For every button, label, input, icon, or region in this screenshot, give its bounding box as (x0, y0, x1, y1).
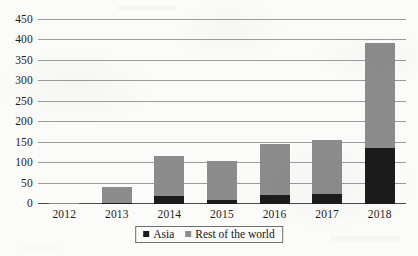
y-tick-label: 150 (15, 136, 33, 148)
bar-segment-asia[interactable] (365, 148, 395, 204)
bar-segment-asia[interactable] (260, 195, 290, 204)
x-tick-label: 2013 (94, 208, 140, 220)
x-tick-label: 2018 (357, 208, 403, 220)
bar-segment-rest-of-the-world[interactable] (365, 43, 395, 148)
y-tick-label: 50 (21, 177, 33, 189)
y-tick-label: 0 (27, 197, 33, 209)
chart-legend: AsiaRest of the world (135, 226, 283, 243)
chart-figure: 050100150200250300350400450 201220132014… (0, 0, 418, 256)
y-tick-label: 250 (15, 95, 33, 107)
legend-swatch-icon (185, 231, 191, 237)
bar-segment-asia[interactable] (207, 200, 237, 204)
legend-label: Rest of the world (195, 228, 275, 240)
legend-item[interactable]: Rest of the world (185, 228, 275, 240)
scan-artifact (330, 236, 400, 241)
bar-segment-rest-of-the-world[interactable] (312, 140, 342, 194)
y-tick-label: 450 (15, 13, 33, 25)
legend-item[interactable]: Asia (143, 228, 174, 240)
y-tick-label: 200 (15, 115, 33, 127)
x-tick-label: 2016 (252, 208, 298, 220)
bar-segment-asia[interactable] (154, 196, 184, 204)
legend-swatch-icon (143, 231, 149, 237)
plot-area: 050100150200250300350400450 201220132014… (38, 20, 406, 204)
bar-segment-asia[interactable] (102, 203, 132, 204)
bar-segment-rest-of-the-world[interactable] (49, 203, 79, 204)
x-tick-label: 2017 (304, 208, 350, 220)
bar-segment-asia[interactable] (312, 194, 342, 204)
bars-layer (38, 20, 406, 204)
y-tick-label: 400 (15, 33, 33, 45)
legend-label: Asia (153, 228, 174, 240)
bar-segment-rest-of-the-world[interactable] (102, 187, 132, 203)
y-tick-label: 300 (15, 74, 33, 86)
y-tick-label: 100 (15, 156, 33, 168)
y-tick-label: 350 (15, 54, 33, 66)
x-tick-label: 2014 (146, 208, 192, 220)
x-tick-label: 2015 (199, 208, 245, 220)
scan-artifact (20, 246, 60, 250)
scan-artifact (118, 6, 176, 10)
bar-segment-rest-of-the-world[interactable] (207, 161, 237, 200)
bar-segment-rest-of-the-world[interactable] (154, 156, 184, 196)
bar-segment-rest-of-the-world[interactable] (260, 144, 290, 196)
x-tick-label: 2012 (41, 208, 87, 220)
